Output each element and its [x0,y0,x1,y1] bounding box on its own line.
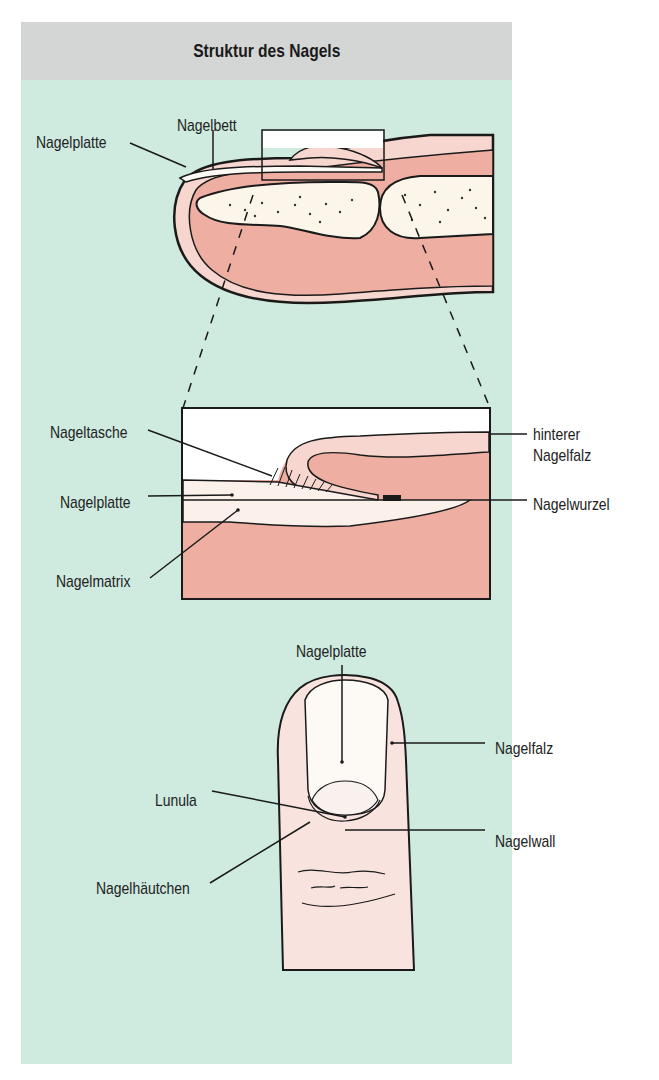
label-side-nail-bed: Nagelbett [177,117,237,135]
top-view-finger [278,675,414,970]
label-detail-nail-pocket: Nageltasche [50,424,128,442]
label-top-nail-fold: Nagelfalz [495,740,553,758]
nail-anatomy-illustration [0,0,659,1080]
label-top-lunula: Lunula [155,792,197,810]
label-detail-nail-root: Nagelwurzel [533,496,610,514]
label-detail-posterior-fold-line2: Nagelfalz [533,447,591,465]
label-top-nail-wall: Nagelwall [495,833,555,851]
side-view-leader-lines [130,130,213,170]
detail-view [182,408,490,599]
label-detail-nail-matrix: Nagelmatrix [56,573,130,591]
label-detail-posterior-fold-line1: hinterer [533,426,580,444]
side-view-finger [174,130,493,303]
label-side-nail-plate: Nagelplatte [36,134,107,152]
label-top-cuticle: Nagelhäutchen [96,880,190,898]
label-top-nail-plate: Nagelplatte [296,643,367,661]
label-detail-nail-plate: Nagelplatte [60,494,131,512]
